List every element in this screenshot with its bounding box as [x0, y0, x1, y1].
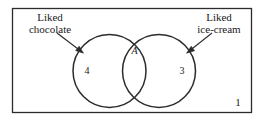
venn-diagram-figure: Liked chocolate Liked ice-cream 4 3 A 1: [0, 0, 264, 122]
right-callout-arrow: [187, 33, 213, 53]
universal-set-label: 1: [235, 96, 241, 108]
right-only-count: 3: [180, 65, 185, 76]
right-set-label-line1: Liked: [206, 11, 232, 23]
right-set-label-line2: ice-cream: [197, 23, 241, 35]
left-only-count: 4: [85, 65, 90, 76]
intersection-set-label: A: [130, 45, 138, 56]
left-callout-arrow: [57, 33, 84, 53]
left-set-label-line2: chocolate: [29, 23, 71, 35]
left-set-label-line1: Liked: [37, 11, 63, 23]
venn-diagram-canvas: Liked chocolate Liked ice-cream 4 3 A 1: [0, 0, 264, 122]
